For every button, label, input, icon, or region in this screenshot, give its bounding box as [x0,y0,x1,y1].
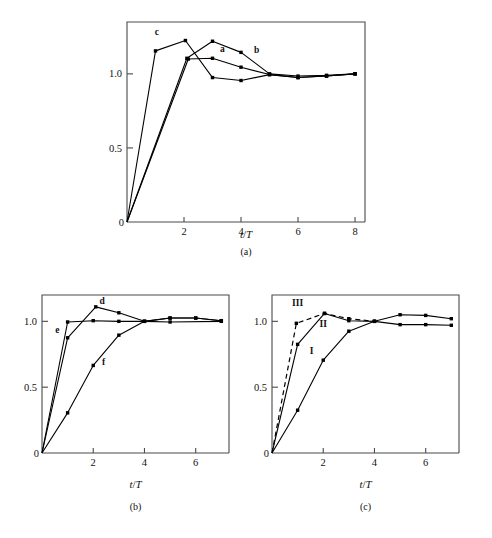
panel-b-caption: (b) [42,501,229,512]
panel-b-plot: 24600.51.0def [42,295,229,453]
curve-b [127,58,355,222]
xtick-label: 6 [193,457,198,468]
panel-a-caption: (a) [127,246,365,257]
data-point-marker [168,320,171,323]
curve-label-e: e [55,325,59,335]
figure-caption-partial [0,529,492,538]
panel-b-xaxis-T: T [136,478,142,490]
data-point-marker [92,364,95,367]
data-point-marker [66,411,69,414]
curve-label-b: b [254,45,259,55]
data-point-marker [398,323,401,326]
curve-label-II: II [320,319,328,329]
curve-II [272,313,451,453]
panel-a: 246800.51.0abc [127,22,365,222]
xtick-label: 6 [423,457,428,468]
data-point-marker [268,73,271,76]
xtick-label: 4 [372,457,378,468]
data-point-marker [187,57,190,60]
data-point-marker [184,39,187,42]
data-point-marker [117,333,120,336]
data-point-marker [450,324,453,327]
xtick-label-zero: 0 [119,217,124,228]
curve-e [42,321,221,453]
data-point-marker [117,311,120,314]
data-point-marker [92,319,95,322]
data-point-marker [211,40,214,43]
data-point-marker [220,319,223,322]
data-point-marker [450,317,453,320]
data-point-marker [347,317,350,320]
ytick-label: 0.5 [24,382,37,393]
xtick-label-zero: 0 [264,448,269,459]
panel-c-caption: (c) [272,501,459,512]
xtick-label: 2 [321,457,326,468]
data-point-marker [211,57,214,60]
data-point-marker [239,79,242,82]
data-point-marker [296,76,299,79]
data-point-marker [296,343,299,346]
data-point-marker [66,320,69,323]
data-point-marker [117,320,120,323]
curve-I [272,315,451,453]
panel-c-plot: 24600.51.0IIIIII [272,295,459,453]
xtick-label-zero: 0 [34,448,39,459]
data-point-marker [347,330,350,333]
panel-a-xaxis-title: t/T [127,228,365,240]
curve-label-f: f [102,357,106,367]
panel-c-xaxis-title: t/T [272,478,459,490]
data-point-marker [143,320,146,323]
panel-b: 24600.51.0def [42,295,229,453]
curve-label-d: d [100,296,106,306]
data-point-marker [66,336,69,339]
xtick-label: 2 [91,457,96,468]
figure-root: 246800.51.0abc t/T (a) 24600.51.0def t/T… [0,0,492,538]
curve-label-a: a [220,44,225,54]
data-point-marker [325,74,328,77]
data-point-marker [194,316,197,319]
ytick-label: 0.5 [109,143,122,154]
panel-c-xaxis-T: T [366,478,372,490]
data-point-marker [424,323,427,326]
data-point-marker [353,72,356,75]
ytick-label: 1.0 [109,68,122,79]
data-point-marker [295,322,298,325]
data-point-marker [211,76,214,79]
panel-b-xaxis-title: t/T [42,478,229,490]
data-point-marker [373,320,376,323]
data-point-marker [296,409,299,412]
data-point-marker [323,312,326,315]
xtick-label: 4 [142,457,148,468]
data-point-marker [322,358,325,361]
ytick-label: 1.0 [24,316,37,327]
ytick-label: 1.0 [254,316,267,327]
curve-label-I: I [310,346,314,356]
data-point-marker [239,65,242,68]
panel-a-xaxis-T: T [246,228,252,240]
data-point-marker [398,313,401,316]
curve-label-III: III [292,298,303,308]
data-point-marker [424,314,427,317]
ytick-label: 0.5 [254,382,267,393]
data-point-marker [154,49,157,52]
data-point-marker [94,305,97,308]
data-point-marker [168,316,171,319]
data-point-marker [239,51,242,54]
panel-c: 24600.51.0IIIIII [272,295,459,453]
curve-III [272,313,374,453]
panel-a-plot: 246800.51.0abc [127,22,365,222]
curve-label-c: c [155,27,159,37]
